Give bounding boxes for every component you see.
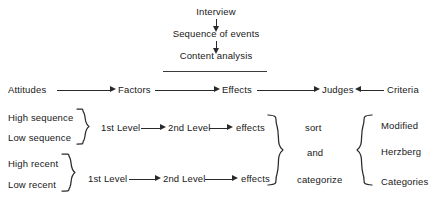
- step-recent-1st-level: 1st Level: [88, 173, 127, 184]
- arrow-right-attitudes-to-factors: [110, 86, 116, 92]
- arrow-right-factors-to-effects: [214, 86, 220, 92]
- node-content-analysis: Content analysis: [180, 50, 253, 61]
- arrow-right-effects-to-judges: [314, 86, 320, 92]
- connector-attitudes-to-factors: [57, 90, 111, 91]
- brace-recent-inputs: [60, 153, 84, 193]
- node-criteria: Criteria: [387, 84, 419, 95]
- node-judges: Judges: [322, 84, 354, 95]
- connector-recent-1st-to-2nd: [129, 179, 156, 180]
- step-sequence-effects: effects: [236, 122, 265, 133]
- section-divider: [163, 71, 267, 72]
- arrow-right-sequence-2nd-to-effects: [227, 124, 233, 130]
- input-high-recent: High recent: [8, 158, 58, 169]
- action-sort: sort: [305, 122, 321, 133]
- output-modified: Modified: [381, 120, 418, 131]
- connector-effects-to-judges: [257, 90, 315, 91]
- brace-effects-aggregate: [266, 114, 292, 188]
- brace-sequence-inputs: [75, 108, 97, 146]
- connector-sequence-1st-to-2nd: [141, 128, 161, 129]
- input-high-sequence: High sequence: [8, 112, 73, 123]
- arrow-right-recent-1st-to-2nd: [155, 175, 161, 181]
- output-categories: Categories: [381, 176, 428, 187]
- node-effects: Effects: [222, 84, 252, 95]
- input-low-recent: Low recent: [8, 179, 56, 190]
- connector-sequence-2nd-to-effects: [209, 128, 228, 129]
- connector-criteria-to-judges: [361, 90, 384, 91]
- process-flow-diagram: Interview Sequence of events Content ana…: [0, 0, 430, 212]
- input-low-sequence: Low sequence: [8, 132, 71, 143]
- action-categorize: categorize: [297, 174, 342, 185]
- node-attitudes: Attitudes: [8, 84, 46, 95]
- arrow-right-recent-2nd-to-effects: [232, 175, 238, 181]
- node-factors: Factors: [118, 84, 151, 95]
- step-recent-2nd-level: 2nd Level: [163, 173, 206, 184]
- node-sequence-of-events: Sequence of events: [173, 28, 260, 39]
- step-sequence-1st-level: 1st Level: [101, 122, 140, 133]
- step-sequence-2nd-level: 2nd Level: [168, 122, 211, 133]
- arrow-right-sequence-1st-to-2nd: [160, 124, 166, 130]
- output-herzberg: Herzberg: [381, 146, 421, 157]
- connector-factors-to-effects: [155, 90, 215, 91]
- brace-output-categories: [350, 114, 376, 188]
- action-and: and: [307, 147, 323, 158]
- connector-recent-2nd-to-effects: [205, 179, 233, 180]
- node-interview: Interview: [196, 6, 235, 17]
